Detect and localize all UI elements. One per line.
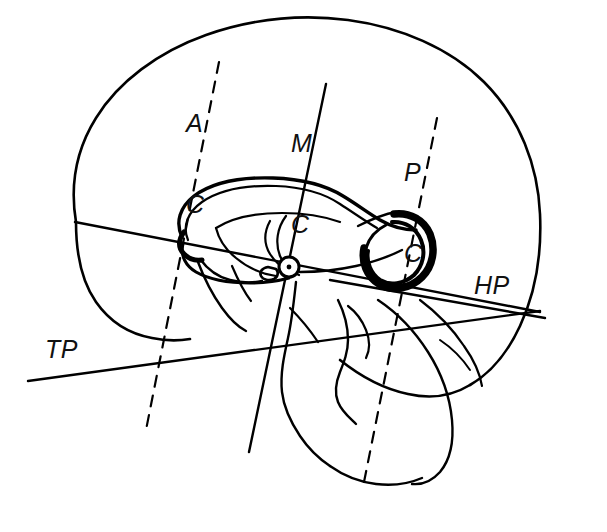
label-pc-line1: P bbox=[404, 159, 434, 186]
cerebellar-fissure-path bbox=[440, 340, 470, 370]
label-pc-line2: C bbox=[404, 240, 434, 267]
cerebellar-peduncle-path bbox=[290, 308, 318, 342]
label-mc-line2: C bbox=[291, 211, 321, 238]
medulla-path bbox=[330, 466, 422, 485]
hp-secondary-line bbox=[330, 280, 545, 318]
brainstem-anterior-path bbox=[281, 282, 330, 466]
fornix-path bbox=[216, 213, 340, 228]
brain-outline-lower-right-path bbox=[340, 360, 470, 396]
brainstem-posterior-path bbox=[336, 300, 356, 424]
brain-diagram-figure: A C M C P C HP TP bbox=[0, 0, 607, 532]
label-ac: A C bbox=[186, 56, 216, 272]
label-hp: HP bbox=[474, 272, 510, 299]
temporal-horn-path bbox=[198, 262, 246, 331]
label-pc: P C bbox=[404, 105, 434, 321]
label-ac-line1: A bbox=[186, 110, 216, 137]
quadrigeminal-path bbox=[348, 306, 369, 358]
label-mc-line1: M bbox=[291, 130, 321, 157]
label-mc: M C bbox=[291, 76, 321, 292]
label-tp: TP bbox=[45, 336, 78, 363]
label-ac-line2: C bbox=[186, 191, 216, 218]
